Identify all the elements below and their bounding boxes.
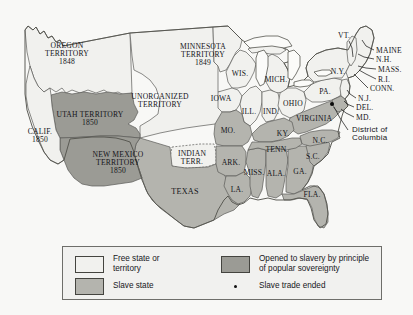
legend-swatch-popular_sovereignty (221, 256, 250, 273)
lake-superior (244, 36, 292, 48)
legend-slave-state-label: Slave state (113, 281, 154, 291)
legend-popular-sov-label: Opened to slavery by principle of popula… (259, 254, 369, 275)
map-figure: OREGON TERRITORY 1848UTAH TERRITORY 1850… (0, 0, 413, 315)
leader-line-rhodeisland (359, 70, 376, 79)
region-new-york (306, 48, 352, 82)
region-arkansas (216, 146, 246, 176)
legend-free-state-label: Free state or territory (113, 254, 159, 275)
region-kentucky (252, 118, 294, 142)
leader-line-connecticut (354, 74, 368, 88)
region-indiana (262, 90, 280, 122)
legend-slave-trade-label: Slave trade ended (259, 281, 325, 291)
legend-slave-state: Slave state (75, 278, 154, 295)
lake-huron (288, 50, 300, 80)
region-indian-territory (170, 144, 216, 168)
region-utah-territory (51, 92, 140, 138)
legend-dot-icon (221, 278, 250, 295)
legend-swatch-slave (75, 278, 104, 295)
region-iowa (218, 88, 242, 112)
legend-slave-trade: Slave trade ended (221, 278, 325, 295)
legend-swatch-free (75, 256, 104, 273)
region-north-carolina (300, 130, 340, 146)
legend-free-state: Free state or territory (75, 254, 159, 275)
region-alabama (266, 148, 288, 198)
legend-popular-sov: Opened to slavery by principle of popula… (221, 254, 369, 275)
region-oregon-territory (25, 26, 132, 95)
slave-trade-ended-dot (330, 102, 334, 106)
map-legend: Free state or territorySlave stateOpened… (62, 246, 382, 300)
region-new-mexico-territory (60, 136, 142, 186)
